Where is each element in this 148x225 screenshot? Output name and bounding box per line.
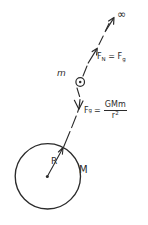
down-arrow	[74, 100, 83, 110]
mass-marker	[76, 78, 85, 87]
fraction-denominator: r2	[104, 111, 127, 120]
up-arrow	[88, 48, 97, 63]
trajectory-line	[64, 23, 109, 147]
large-mass-label: M	[79, 165, 88, 175]
physics-diagram: ∞ m M R FN = Fg Fg = GMm r2	[0, 0, 148, 225]
fg-relation: =	[92, 107, 103, 115]
fn-lhs-subscript: N	[102, 56, 106, 62]
radius-label: R	[51, 157, 57, 166]
small-mass-label: m	[57, 69, 66, 78]
infinity-arrow	[106, 17, 114, 31]
infinity-label: ∞	[117, 9, 126, 20]
denominator-exponent: 2	[115, 110, 119, 116]
gravity-fraction: GMm r2	[104, 101, 127, 121]
fn-rhs-subscript: g	[122, 56, 126, 62]
fn-relation: =	[108, 52, 115, 61]
normal-force-equation: FN = Fg	[97, 53, 126, 62]
fraction-numerator: GMm	[104, 101, 127, 109]
gravity-law-equation: Fg = GMm r2	[84, 101, 127, 121]
